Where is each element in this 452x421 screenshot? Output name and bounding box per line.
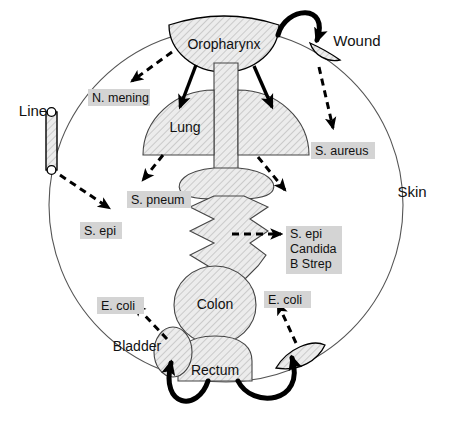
organ-stomach — [179, 168, 273, 199]
route-wound-to-s-aureus — [319, 67, 333, 128]
pathogen-label-s-epi-line: S. epi — [80, 222, 122, 239]
route-oropharynx-to-wound — [278, 13, 319, 40]
organ-perineum — [276, 343, 325, 369]
organ-label-colon: Colon — [197, 296, 234, 312]
outer-label-wound: Wound — [333, 32, 380, 49]
pathogen-text-b-strep: B Strep — [290, 257, 332, 271]
organ-label-oropharynx: Oropharynx — [187, 36, 260, 52]
route-perineum-to-e-coli — [278, 304, 296, 343]
pathogen-text-n-mening: N. mening — [92, 91, 149, 105]
pathogen-text-s-aureus: S. aureus — [315, 144, 369, 158]
pathogen-label-s-aureus: S. aureus — [311, 142, 375, 159]
organ-label-bladder: Bladder — [113, 338, 162, 354]
pathogen-text-s-epi-line: S. epi — [84, 224, 116, 238]
pathogen-label-e-coli-perineum: E. coli — [264, 291, 311, 308]
pathogen-label-e-coli-bladder: E. coli — [97, 297, 144, 314]
pathogen-text-s-epi: S. epi — [290, 227, 322, 241]
pathogen-text-s-pneum: S. pneum — [131, 193, 185, 207]
pathogen-text-e-coli-perineum: E. coli — [268, 293, 302, 307]
pathogen-label-s-pneum: S. pneum — [127, 191, 191, 208]
route-line-to-s-epi — [60, 175, 109, 208]
infection-source-diagram: Oropharynx Lung Colon Rectum Bladder Wou… — [0, 0, 452, 421]
diagram-canvas: Oropharynx Lung Colon Rectum Bladder Wou… — [0, 0, 452, 421]
pathogen-label-s-epi-candida-bstrep: S. epi Candida B Strep — [286, 226, 342, 274]
pathogen-text-e-coli-bladder: E. coli — [101, 299, 135, 313]
route-lung-to-s-pneum — [143, 155, 163, 180]
device-line-catheter — [46, 108, 57, 175]
outer-label-line: Line — [19, 102, 47, 119]
outer-label-skin: Skin — [397, 183, 426, 200]
pathogen-label-n-mening: N. mening — [88, 89, 150, 106]
organ-label-lung: Lung — [169, 119, 200, 135]
route-oropharynx-to-n-mening — [132, 52, 172, 81]
organ-lung-right — [238, 90, 309, 155]
pathogen-text-candida: Candida — [290, 242, 337, 256]
organ-label-rectum: Rectum — [191, 362, 239, 378]
organ-trachea — [214, 63, 238, 175]
